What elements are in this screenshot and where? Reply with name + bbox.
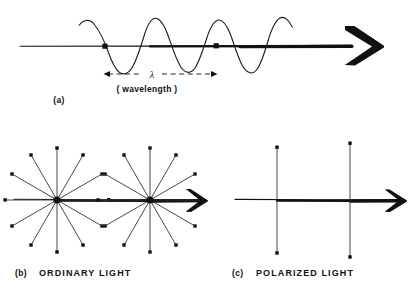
spoke-tip-dot (29, 243, 32, 246)
spoke-30deg (150, 174, 195, 200)
spoke-330deg (150, 200, 195, 226)
dimension-arrow-right (211, 71, 218, 77)
spoke-240deg (31, 200, 57, 245)
wave-node-marker-1 (102, 44, 107, 49)
spoke-tip-dot (122, 153, 125, 156)
spoke-tip-dot (55, 250, 58, 253)
vibration-tip-dot-top (275, 146, 278, 149)
vibration-tip-dot-top (348, 142, 351, 145)
starburst-center (53, 196, 60, 203)
spoke-tip-dot (96, 198, 99, 201)
spoke-210deg (12, 200, 57, 226)
spoke-120deg (31, 155, 57, 200)
spoke-tip-dot (103, 172, 106, 175)
polarization-figure: λ ( wavelength ) (a) (0, 0, 417, 290)
starburst-1 (3, 146, 110, 253)
spoke-300deg (150, 200, 176, 245)
spoke-tip-dot (174, 243, 177, 246)
spoke-tip-dot (3, 198, 6, 201)
spoke-tip-dot (10, 224, 13, 227)
spoke-300deg (57, 200, 83, 245)
panel-a: λ ( wavelength ) (a) (20, 17, 384, 105)
spoke-tip-dot (193, 224, 196, 227)
spoke-60deg (150, 155, 176, 200)
lambda-symbol: λ (149, 69, 155, 80)
panel-a-propagation-axis (20, 45, 352, 46)
wave-node-marker-2 (214, 43, 219, 48)
spoke-tip-dot (193, 172, 196, 175)
panel-a-label: (a) (53, 95, 65, 105)
panel-c-label: (c) (232, 268, 244, 278)
spoke-tip-dot (55, 146, 58, 149)
spoke-tip-dot (100, 224, 103, 227)
spoke-tip-dot (10, 172, 13, 175)
starburst-2 (96, 146, 203, 253)
spoke-tip-dot (103, 224, 106, 227)
spoke-tip-dot (81, 243, 84, 246)
spoke-tip-dot (200, 198, 203, 201)
spoke-tip-dot (148, 250, 151, 253)
spoke-210deg (105, 200, 150, 226)
spoke-tip-dot (122, 243, 125, 246)
panel-c-title: POLARIZED LIGHT (256, 268, 354, 278)
spoke-150deg (105, 174, 150, 200)
vibration-tip-dot-bottom (275, 251, 278, 254)
dimension-arrow-left (104, 71, 111, 77)
figure-container: λ ( wavelength ) (a) (0, 0, 417, 290)
panel-c: (c) POLARIZED LIGHT (232, 142, 407, 279)
wavelength-dimension-line: λ (104, 69, 218, 80)
spoke-tip-dot (174, 153, 177, 156)
spoke-120deg (124, 155, 150, 200)
vibration-tip-dot-bottom (348, 255, 351, 258)
wavelength-caption: ( wavelength ) (117, 84, 178, 94)
spoke-150deg (12, 174, 57, 200)
starburst-center (146, 196, 153, 203)
panel-b-title: ORDINARY LIGHT (39, 268, 131, 278)
spoke-240deg (124, 200, 150, 245)
spoke-tip-dot (100, 172, 103, 175)
spoke-30deg (57, 174, 102, 200)
panel-b-label: (b) (15, 268, 27, 278)
panel-b: (b) ORDINARY LIGHT (3, 146, 208, 278)
spoke-tip-dot (81, 153, 84, 156)
spoke-tip-dot (29, 153, 32, 156)
panel-c-propagation-axis (235, 199, 404, 201)
spoke-330deg (57, 200, 102, 226)
spoke-tip-dot (148, 146, 151, 149)
spoke-60deg (57, 155, 83, 200)
